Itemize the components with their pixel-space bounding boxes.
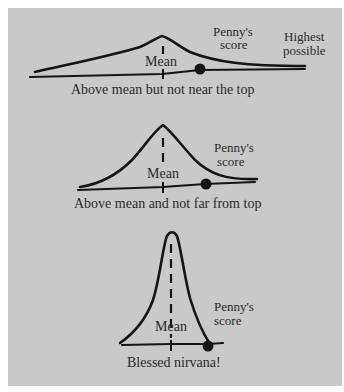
panel-narrow-distribution: Mean Penny's score Blessed nirvana!: [120, 232, 254, 370]
mean-label: Mean: [155, 319, 187, 334]
mean-label: Mean: [147, 166, 179, 181]
penny-score-dot: [195, 64, 206, 75]
penny-score-label-line2: score: [217, 154, 245, 169]
baseline-axis: [30, 69, 305, 77]
penny-score-label-line1: Penny's: [214, 299, 254, 314]
penny-score-dot: [203, 341, 214, 352]
penny-score-label-line1: Penny's: [214, 140, 254, 155]
highest-possible-label-line1: Highest: [284, 29, 325, 44]
baseline-axis: [78, 182, 255, 190]
highest-possible-label-line2: possible: [283, 43, 326, 58]
panel-wide-distribution: Mean Penny's score Highest possible Abov…: [30, 24, 326, 97]
penny-score-label-line2: score: [220, 37, 248, 52]
caption-narrow: Blessed nirvana!: [127, 355, 221, 370]
caption-wide: Above mean but not near the top: [71, 82, 255, 97]
penny-score-label-line2: score: [214, 313, 242, 328]
panel-medium-distribution: Mean Penny's score Above mean and not fa…: [74, 125, 261, 211]
mean-label: Mean: [145, 54, 177, 69]
caption-medium: Above mean and not far from top: [74, 196, 261, 211]
penny-score-dot: [201, 179, 212, 190]
distribution-diagram: Mean Penny's score Highest possible Abov…: [0, 0, 344, 392]
